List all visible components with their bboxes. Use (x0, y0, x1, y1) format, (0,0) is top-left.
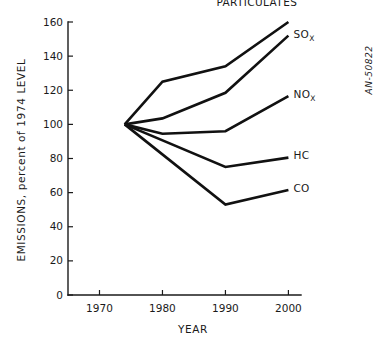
series-label-particulates: PARTICULATES (216, 0, 297, 8)
x-axis-ticks (99, 290, 288, 295)
y-axis-title: EMISSIONS, percent of 1974 LEVEL (15, 58, 27, 261)
y-tick-label: 40 (50, 220, 63, 232)
y-tick-label: 140 (43, 50, 63, 62)
y-axis-tick-labels: 020406080100120140160 (43, 16, 63, 301)
x-axis-tick-labels: 1970198019902000 (86, 302, 302, 314)
series-label-hc: HC (293, 149, 309, 161)
y-axis-ticks (68, 22, 73, 295)
series-label-text: HC (293, 149, 309, 161)
series-label-subscript: X (309, 34, 315, 43)
y-tick-label: 160 (43, 16, 63, 28)
x-tick-label: 1970 (86, 302, 113, 314)
chart-canvas: 020406080100120140160 1970198019902000 P… (0, 0, 387, 356)
series-line-co (125, 124, 289, 204)
y-tick-label: 0 (56, 289, 63, 301)
series-label-text: SO (293, 28, 309, 40)
series-label-sox: SOX (293, 28, 314, 43)
x-tick-label: 2000 (275, 302, 302, 314)
series-label-co: CO (293, 182, 309, 194)
y-tick-label: 60 (50, 186, 63, 198)
y-tick-label: 120 (43, 84, 63, 96)
y-tick-label: 100 (43, 118, 63, 130)
y-tick-label: 80 (50, 152, 63, 164)
series-label-subscript: X (310, 94, 316, 103)
figure-id-label: AN-50822 (364, 46, 374, 96)
series-labels-group: PARTICULATESSOXNOXHCCO (216, 0, 315, 194)
x-tick-label: 1980 (149, 302, 176, 314)
x-tick-label: 1990 (212, 302, 239, 314)
series-label-text: CO (293, 182, 309, 194)
y-tick-label: 20 (50, 254, 63, 266)
axes-group (68, 22, 301, 295)
series-lines-group (125, 22, 289, 205)
series-label-text: NO (293, 88, 310, 100)
series-label-text: PARTICULATES (216, 0, 297, 8)
x-axis-title: YEAR (177, 323, 208, 335)
emissions-projection-figure: 020406080100120140160 1970198019902000 P… (0, 0, 387, 356)
series-label-nox: NOX (293, 88, 315, 103)
